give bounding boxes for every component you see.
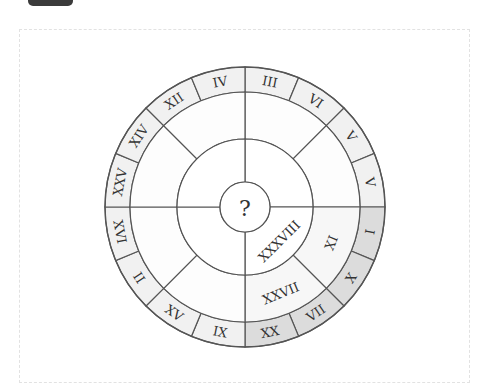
center-question-mark: ? [239,196,251,221]
number-wheel-puzzle: IIIVIVVIXVIIXXIXXVIIXVIXXVXIVXIIIVXIXXVI… [0,0,486,389]
outer-ring-label: III [261,73,279,91]
